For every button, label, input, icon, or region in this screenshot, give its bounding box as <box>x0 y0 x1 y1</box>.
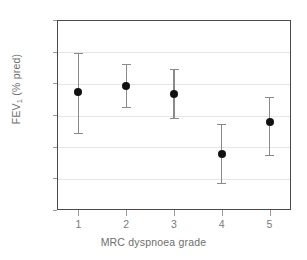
x-tick-mark <box>222 210 223 216</box>
y-axis-title: FEV1 (% pred) <box>10 29 22 149</box>
x-tick-label: 1 <box>66 218 90 230</box>
x-tick-label: 3 <box>162 218 186 230</box>
x-tick-label: 4 <box>210 218 234 230</box>
errorbar-cap-lower <box>265 155 274 156</box>
y-tick-mark <box>53 83 57 84</box>
y-axis-title-main: FEV <box>10 103 22 124</box>
errorbar-cap-lower <box>122 107 131 108</box>
errorbar-cap-lower <box>170 118 179 119</box>
errorbar-cap-lower <box>74 133 83 134</box>
y-axis-title-tail: (% pred) <box>10 54 22 99</box>
y-axis-title-subscript: 1 <box>15 99 24 103</box>
gridline <box>58 147 290 148</box>
data-marker <box>218 150 226 158</box>
gridline <box>58 52 290 53</box>
gridline <box>58 179 290 180</box>
x-tick-label: 5 <box>258 218 282 230</box>
errorbar-cap-upper <box>170 69 179 70</box>
errorbar-cap-upper <box>217 124 226 125</box>
x-tick-mark <box>78 210 79 216</box>
y-tick-mark <box>53 178 57 179</box>
x-axis-title: MRC dyspnoea grade <box>0 236 307 248</box>
errorbar-cap-lower <box>217 183 226 184</box>
x-tick-mark <box>126 210 127 216</box>
x-tick-mark <box>174 210 175 216</box>
data-marker <box>266 118 274 126</box>
x-tick-label: 2 <box>114 218 138 230</box>
y-tick-mark <box>53 115 57 116</box>
y-tick-mark <box>53 210 57 211</box>
y-tick-mark <box>53 20 57 21</box>
figure-canvas: FEV1 (% pred) MRC dyspnoea grade 2030405… <box>0 0 307 260</box>
y-tick-mark <box>53 52 57 53</box>
errorbar-cap-upper <box>74 53 83 54</box>
errorbar-cap-upper <box>122 64 131 65</box>
y-tick-mark <box>53 147 57 148</box>
errorbar-cap-upper <box>265 97 274 98</box>
x-tick-mark <box>270 210 271 216</box>
